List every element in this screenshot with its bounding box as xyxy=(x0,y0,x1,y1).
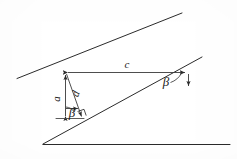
label-angle-beta-right: β xyxy=(162,74,170,89)
middle-inclined-line xyxy=(43,57,202,144)
label-angle-beta-lower: β xyxy=(68,105,76,120)
label-a-group: a xyxy=(50,96,62,102)
label-side-c: c xyxy=(125,58,130,70)
label-d-group: d xyxy=(69,89,82,99)
label-side-a: a xyxy=(50,96,62,102)
label-side-d: d xyxy=(69,89,82,99)
beta-right-angle-arc xyxy=(171,73,182,82)
upper-inclined-line xyxy=(17,13,182,79)
diagram-svg: a d c β β xyxy=(0,0,237,159)
geometry-diagram-canvas: a d c β β xyxy=(0,0,237,159)
